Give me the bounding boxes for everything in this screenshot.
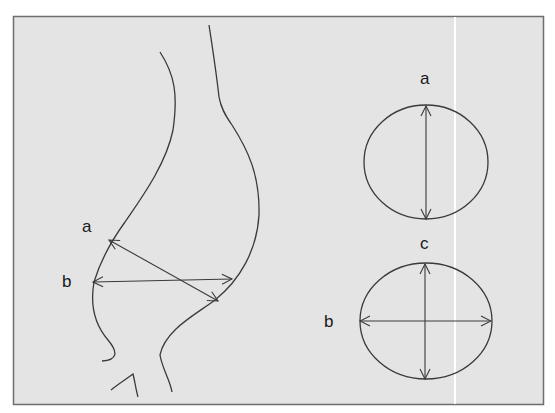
bottom-section-label-c: c: [420, 234, 429, 253]
top-section-label-a: a: [420, 69, 430, 88]
figure-frame: [14, 17, 544, 405]
side-label-b: b: [62, 272, 71, 291]
side-label-a: a: [82, 217, 92, 236]
bottom-section-label-b: b: [324, 312, 333, 331]
diagram-figure: a b a c b: [0, 0, 555, 413]
